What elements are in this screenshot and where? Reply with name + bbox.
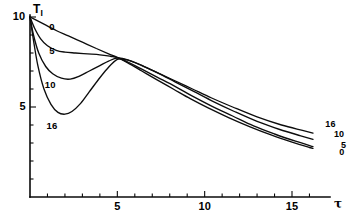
axis-ticks — [30, 0, 309, 197]
curve-label-left-0: 0 — [49, 22, 54, 32]
x-tick-label-15: 15 — [286, 201, 299, 212]
curve-label-right-0: 0 — [339, 148, 344, 157]
curve-0 — [30, 17, 313, 148]
curve-label-right-10: 10 — [334, 130, 344, 139]
y-tick-label-5: 5 — [19, 101, 25, 112]
y-axis-title-subscript: I — [41, 8, 44, 18]
plot-canvas — [0, 0, 351, 218]
axes-group — [30, 15, 330, 197]
data-curves — [30, 17, 313, 148]
curve-label-right-16: 16 — [325, 120, 335, 129]
curve-5 — [30, 17, 313, 147]
curve-label-left-16: 16 — [47, 121, 58, 131]
chart-figure: 51015510051016161050 TI τ — [0, 0, 351, 218]
x-axis-title: τ — [334, 198, 342, 210]
x-tick-label-5: 5 — [114, 201, 120, 212]
curve-label-left-10: 10 — [45, 80, 56, 90]
curve-16 — [30, 17, 313, 133]
y-axis-title: TI — [33, 3, 43, 18]
curve-label-left-5: 5 — [49, 46, 54, 56]
y-tick-label-10: 10 — [13, 11, 26, 22]
x-tick-label-10: 10 — [198, 201, 211, 212]
y-axis-title-base: T — [33, 2, 41, 16]
